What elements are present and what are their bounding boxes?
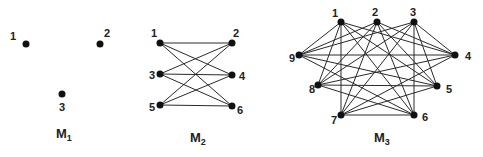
vertex-1 (157, 40, 164, 47)
vertex-label: 3 (59, 101, 65, 113)
graph-title: M3 (374, 130, 390, 147)
vertex-label: 5 (149, 101, 155, 113)
vertex-2 (97, 41, 104, 48)
vertex-2 (374, 19, 381, 26)
edge-5-4 (160, 75, 232, 105)
vertex-label: 9 (289, 52, 295, 64)
vertex-8 (315, 82, 322, 89)
graph-title: M1 (56, 126, 72, 143)
edge-5-6 (160, 105, 232, 106)
graph-m2: 123456M2 (149, 27, 246, 147)
graph-m3: 123456789M3 (289, 6, 472, 147)
graphs-svg: 123M1123456M2123456789M3 (0, 0, 483, 157)
vertex-4 (229, 72, 236, 79)
vertex-9 (296, 52, 303, 59)
edge-5-8 (318, 85, 437, 86)
edge-3-8 (318, 22, 414, 85)
vertex-label: 7 (331, 114, 337, 126)
vertex-7 (338, 112, 345, 119)
vertex-2 (229, 40, 236, 47)
graph-m1: 123M1 (10, 27, 110, 143)
vertex-label: 1 (151, 27, 157, 39)
graph-figure: 123M1123456M2123456789M3 (0, 0, 483, 157)
vertex-label: 6 (237, 104, 243, 116)
vertex-6 (229, 103, 236, 110)
vertex-3 (411, 19, 418, 26)
vertex-5 (434, 83, 441, 90)
vertex-label: 3 (410, 6, 416, 18)
vertex-5 (157, 102, 164, 109)
vertex-label: 4 (239, 70, 246, 82)
vertex-label: 2 (233, 27, 239, 39)
vertex-label: 8 (309, 83, 315, 95)
vertex-3 (59, 91, 66, 98)
edge-2-8 (318, 22, 377, 85)
vertex-label: 1 (332, 7, 338, 19)
graph-title: M2 (190, 130, 206, 147)
vertex-label: 2 (104, 27, 110, 39)
vertex-label: 4 (465, 50, 472, 62)
vertex-label: 5 (446, 83, 452, 95)
vertex-4 (452, 52, 459, 59)
vertex-label: 3 (149, 69, 155, 81)
vertex-label: 2 (372, 6, 378, 18)
vertex-1 (23, 41, 30, 48)
vertex-label: 1 (10, 30, 16, 42)
vertex-3 (157, 71, 164, 78)
vertex-1 (338, 19, 345, 26)
vertex-6 (411, 112, 418, 119)
vertex-label: 6 (422, 111, 428, 123)
